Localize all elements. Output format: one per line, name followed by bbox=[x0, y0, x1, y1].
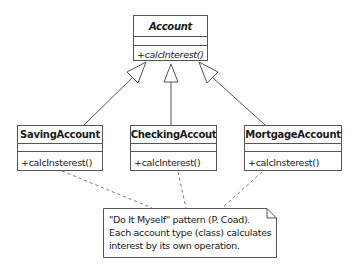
class-mortgage-account[interactable]: MortgageAccount +calcInsterest() bbox=[244, 125, 342, 171]
note-line: "Do It Myself" pattern (P. Coad). bbox=[109, 213, 269, 226]
generalization-checking bbox=[164, 64, 178, 125]
note-anchors bbox=[62, 171, 262, 208]
generalization-saving bbox=[84, 62, 146, 125]
class-name: Account bbox=[134, 16, 207, 37]
class-attributes bbox=[134, 37, 207, 46]
class-attributes bbox=[131, 144, 216, 152]
class-operation: +calcInsterest() bbox=[18, 152, 102, 172]
class-operation: +calcInsterest() bbox=[245, 152, 341, 172]
generalization-mortgage bbox=[199, 62, 265, 125]
class-attributes bbox=[245, 144, 341, 152]
class-account[interactable]: Account +calcInterest() bbox=[133, 15, 208, 61]
class-attributes bbox=[18, 144, 102, 152]
class-operation: +calcInterest() bbox=[134, 46, 207, 62]
class-saving-account[interactable]: SavingAccount +calcInsterest() bbox=[17, 125, 103, 171]
note[interactable]: "Do It Myself" pattern (P. Coad). Each a… bbox=[103, 209, 275, 257]
class-name: CheckingAccout bbox=[131, 126, 216, 144]
class-checking-account[interactable]: CheckingAccout +calcInterest() bbox=[130, 125, 217, 171]
note-line: interest by its own operation. bbox=[109, 239, 269, 252]
note-line: Each account type (class) calculates bbox=[109, 226, 269, 239]
class-name: SavingAccount bbox=[18, 126, 102, 144]
class-operation: +calcInterest() bbox=[131, 152, 216, 172]
class-name: MortgageAccount bbox=[245, 126, 341, 144]
